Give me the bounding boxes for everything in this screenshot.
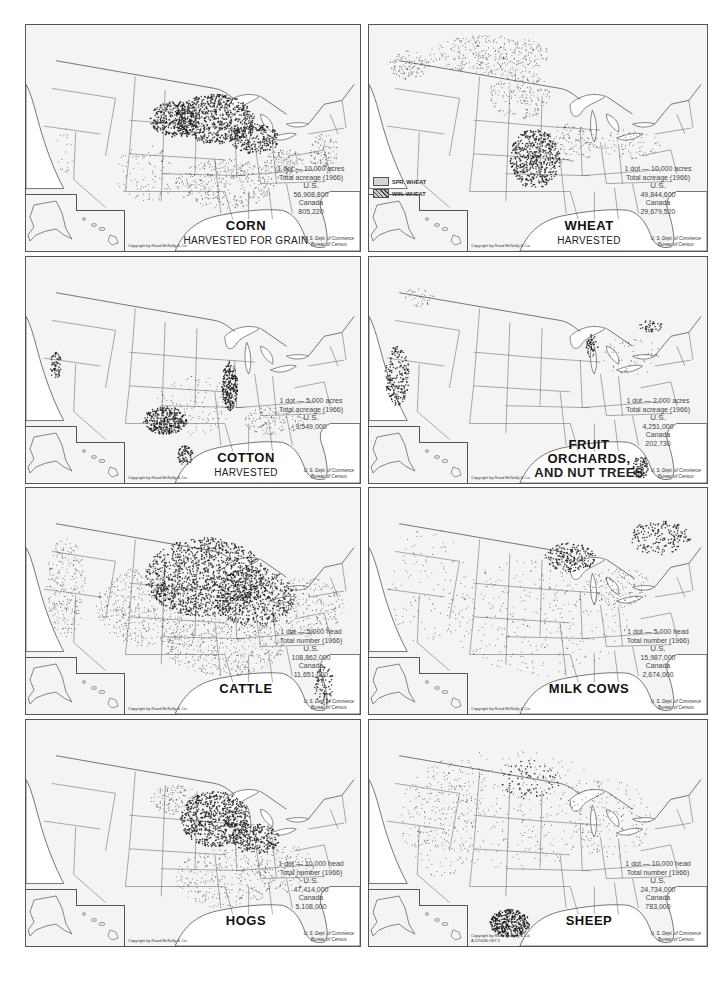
map-legend: 1 dot — 10,000 head Total number (1966) … — [266, 860, 356, 911]
source-note: U. S. Dept. of Commerce Bureau of Census — [651, 699, 701, 711]
map-title: WHEAT — [529, 219, 649, 233]
alaska-inset — [26, 194, 77, 251]
legend-us-value: 49,844,600 — [613, 191, 703, 200]
map-panel-milkcows: Copyright by Rand McNally & Co. MILK COW… — [368, 487, 708, 715]
copyright-note: Copyright by Rand McNally & Co. — [471, 706, 531, 711]
legend-canada-value: 202,730 — [613, 440, 703, 449]
source-note: U. S. Dept. of Commerce Bureau of Census — [304, 699, 354, 711]
source-note: U. S. Dept. of Commerce Bureau of Census — [304, 468, 354, 480]
alaska-inset — [369, 657, 420, 714]
alaska-inset — [26, 426, 77, 483]
legend-canada-label: Canada — [613, 662, 703, 671]
wheat-type-key: SPR. WHEAT WIN. WHEAT — [373, 177, 426, 201]
legend-us-label: U.S. — [266, 645, 356, 654]
legend-unit: 1 dot — 2,000 acres — [613, 397, 703, 406]
map-panel-cattle: Copyright by Rand McNally & Co. CATTLE 1… — [25, 487, 361, 715]
hawaii-inset — [419, 905, 468, 946]
legend-canada-label: Canada — [266, 199, 356, 208]
map-legend: 1 dot — 10,000 acres Total acreage (1966… — [613, 165, 703, 216]
hawaii-inset — [419, 442, 468, 483]
legend-us-value: 24,734,000 — [613, 886, 703, 895]
hawaii-inset — [76, 442, 125, 483]
legend-us-label: U.S. — [266, 877, 356, 886]
map-legend: 1 dot — 5,000 acres Total acreage (1966)… — [266, 397, 356, 431]
legend-canada-label: Canada — [613, 894, 703, 903]
hawaii-inset — [419, 210, 468, 251]
legend-us-value: 56,908,800 — [266, 191, 356, 200]
legend-unit: 1 dot — 5,000 head — [613, 628, 703, 637]
legend-unit: 1 dot — 10,000 acres — [613, 165, 703, 174]
source-note: U. S. Dept. of Commerce Bureau of Census — [304, 931, 354, 943]
legend-canada-value: 805,220 — [266, 208, 356, 217]
map-subtitle: AND NUT TREES — [519, 465, 659, 480]
map-legend: 1 dot — 2,000 acres Total acreage (1966)… — [613, 397, 703, 448]
winter-wheat-swatch — [373, 189, 389, 198]
source-note: U. S. Dept. of Commerce Bureau of Census — [651, 931, 701, 943]
alaska-inset — [369, 889, 420, 946]
legend-us-label: U.S. — [266, 414, 356, 423]
map-panel-corn: Copyright by Rand McNally & Co. CORN HAR… — [25, 24, 361, 252]
legend-us-label: U.S. — [266, 182, 356, 191]
legend-us-value: 15,987,000 — [613, 654, 703, 663]
hawaii-inset — [419, 673, 468, 714]
legend-canada-label: Canada — [266, 662, 356, 671]
legend-canada-label: Canada — [613, 431, 703, 440]
legend-canada-value: 29,679,520 — [613, 208, 703, 217]
spring-wheat-swatch — [373, 177, 389, 186]
map-panel-fruit: Copyright by Rand McNally & Co. FRUIT OR… — [368, 256, 708, 484]
map-legend: 1 dot — 10,000 head Total number (1966) … — [613, 860, 703, 911]
legend-us-value: 4,251,000 — [613, 423, 703, 432]
map-panel-hogs: Copyright by Rand McNally & Co. HOGS 1 d… — [25, 719, 361, 947]
legend-us-label: U.S. — [613, 182, 703, 191]
copyright-note: Copyright by Rand McNally & Co. — [128, 706, 188, 711]
copyright-note: Copyright by Rand McNally & Co. — [128, 938, 188, 943]
map-legend: 1 dot — 5,000 head Total number (1966) U… — [613, 628, 703, 679]
copyright-note: Copyright by Rand McNally & Co. A-570580… — [471, 933, 531, 943]
map-title: CORN — [186, 219, 306, 233]
legend-unit: 1 dot — 5,000 head — [266, 628, 356, 637]
legend-canada-value: 11,651,000 — [266, 671, 356, 680]
legend-unit: 1 dot — 5,000 acres — [266, 397, 356, 406]
legend-canada-value: 5,108,000 — [266, 903, 356, 912]
map-panel-cotton: Copyright by Rand McNally & Co. COTTON H… — [25, 256, 361, 484]
legend-unit: 1 dot — 10,000 acres — [266, 165, 356, 174]
legend-us-value: 9,549,000 — [266, 423, 356, 432]
legend-canada-value: 2,674,000 — [613, 671, 703, 680]
map-title: HOGS — [186, 914, 306, 928]
map-subtitle: HARVESTED FOR GRAIN — [176, 235, 316, 246]
map-legend: 1 dot — 5,000 head Total number (1966) U… — [266, 628, 356, 679]
map-title: CATTLE — [186, 682, 306, 696]
legend-unit: 1 dot — 10,000 head — [266, 860, 356, 869]
legend-us-label: U.S. — [613, 877, 703, 886]
legend-us-label: U.S. — [613, 645, 703, 654]
map-legend: 1 dot — 10,000 acres Total acreage (1966… — [266, 165, 356, 216]
map-panel-wheat: Copyright by Rand McNally & Co. WHEAT HA… — [368, 24, 708, 252]
hawaii-inset — [76, 673, 125, 714]
map-title: COTTON — [186, 451, 306, 465]
source-note: U. S. Dept. of Commerce Bureau of Census — [651, 236, 701, 248]
map-panel-sheep: Copyright by Rand McNally & Co. A-570580… — [368, 719, 708, 947]
legend-canada-label: Canada — [613, 199, 703, 208]
alaska-inset — [369, 426, 420, 483]
legend-us-label: U.S. — [613, 414, 703, 423]
legend-unit: 1 dot — 10,000 head — [613, 860, 703, 869]
alaska-inset — [369, 194, 420, 251]
legend-us-value: 47,414,000 — [266, 886, 356, 895]
source-note: U. S. Dept. of Commerce Bureau of Census — [304, 236, 354, 248]
hawaii-inset — [76, 210, 125, 251]
source-note: U. S. Dept. of Commerce Bureau of Census — [651, 468, 701, 480]
map-title: SHEEP — [529, 914, 649, 928]
map-title: MILK COWS — [529, 682, 649, 696]
map-subtitle: HARVESTED — [176, 467, 316, 478]
map-subtitle: HARVESTED — [519, 235, 659, 246]
legend-us-value: 108,862,000 — [266, 654, 356, 663]
legend-canada-label: Canada — [266, 894, 356, 903]
legend-canada-value: 783,000 — [613, 903, 703, 912]
alaska-inset — [26, 657, 77, 714]
hawaii-inset — [76, 905, 125, 946]
alaska-inset — [26, 889, 77, 946]
